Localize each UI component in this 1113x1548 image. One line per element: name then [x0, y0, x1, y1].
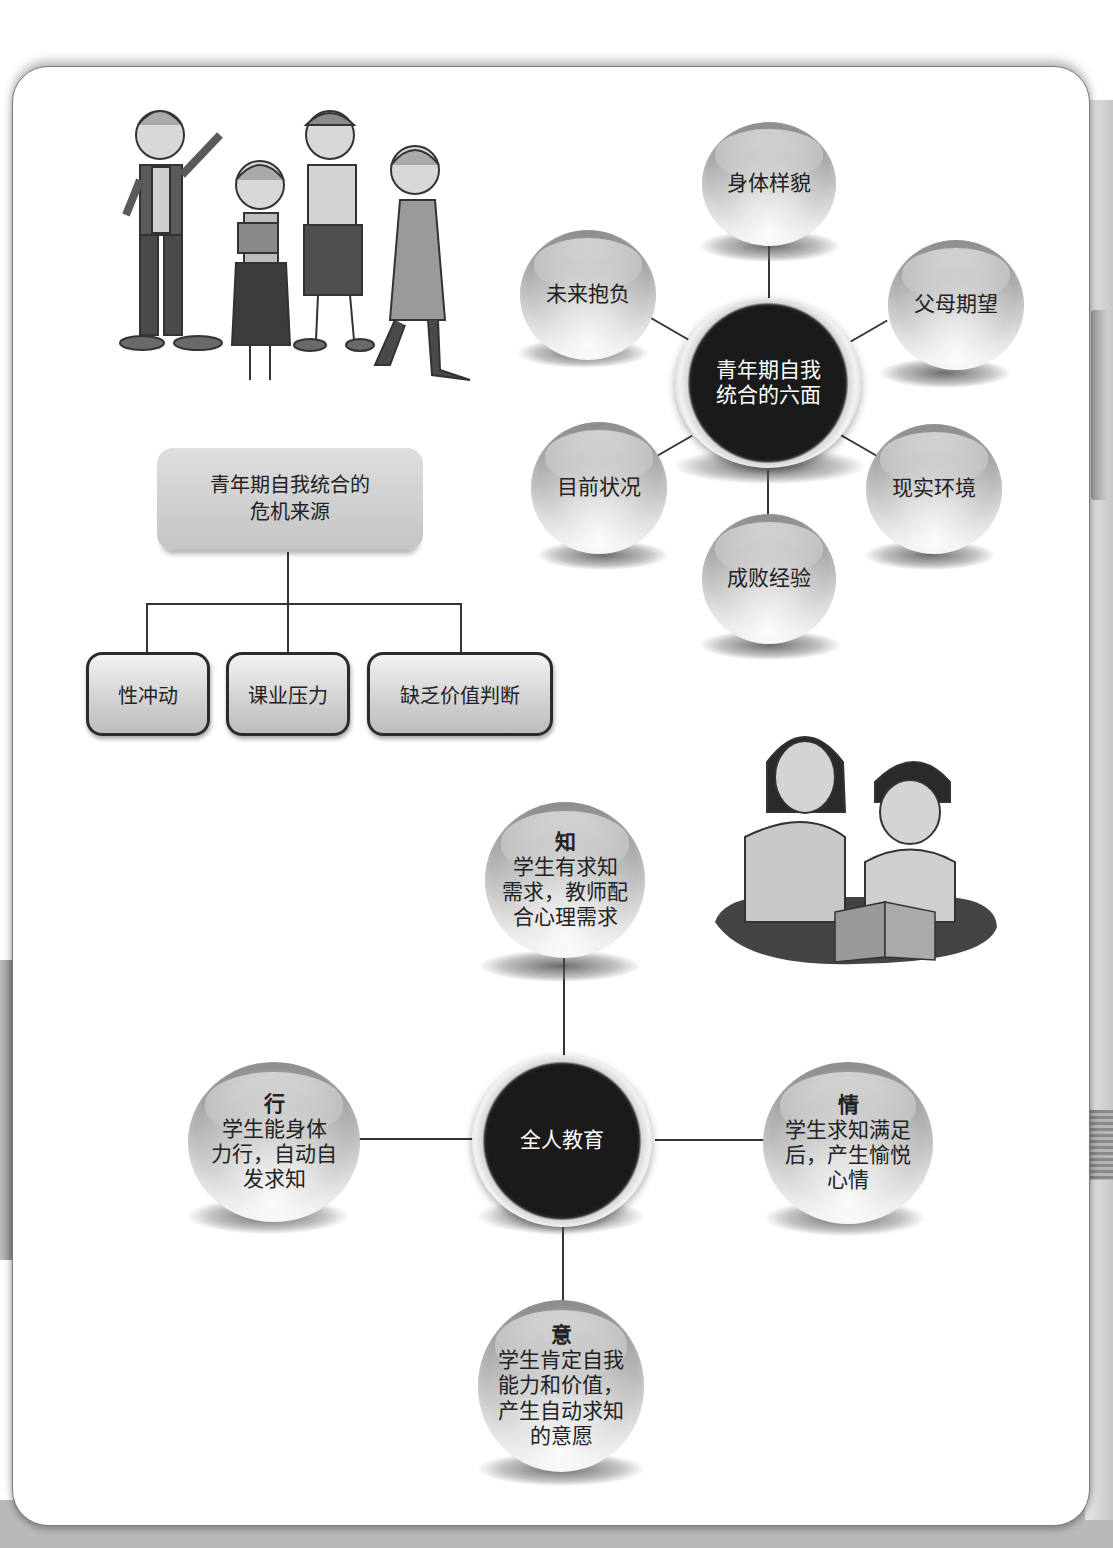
education-label: 意 学生肯定自我 能力和价值， 产生自动求知 的意愿	[498, 1323, 624, 1449]
aspect-node-upper-left: 未来抱负	[520, 230, 656, 360]
connector-qing	[655, 1139, 767, 1141]
aspect-node-upper-right: 父母期望	[888, 240, 1024, 370]
open-book	[835, 902, 935, 962]
connector-xing	[355, 1138, 475, 1140]
education-node-qing: 情 学生求知满足 后，产生愉悦 心情	[763, 1062, 933, 1224]
aspect-label: 现实环境	[892, 476, 976, 501]
crisis-child-sexual-impulse: 性冲动	[86, 652, 210, 736]
page-tab	[1091, 310, 1109, 500]
teen-boy-jacket	[120, 111, 222, 350]
education-node-yi: 意 学生肯定自我 能力和价值， 产生自动求知 的意愿	[478, 1300, 644, 1472]
aspect-node-lower-right: 现实环境	[866, 424, 1002, 554]
holistic-education-center: 全人教育	[472, 1055, 652, 1227]
crisis-child-academic-pressure: 课业压力	[226, 652, 350, 736]
education-node-zhi: 知 学生有求知 需求，教师配 合心理需求	[485, 802, 645, 958]
education-label: 行 学生能身体 力行，自动自 发求知	[211, 1092, 337, 1193]
child-figure	[865, 762, 955, 922]
aspect-label: 父母期望	[914, 292, 998, 317]
tree-trunk	[287, 552, 289, 652]
aspect-node-bottom: 成败经验	[702, 514, 836, 644]
center-label: 青年期自我 统合的六面	[716, 358, 821, 408]
education-label: 知 学生有求知 需求，教师配 合心理需求	[502, 830, 628, 931]
aspect-label: 成败经验	[727, 566, 811, 591]
aspect-label: 目前状况	[557, 475, 641, 500]
tree-branch-left	[146, 603, 148, 653]
aspect-label: 未来抱负	[546, 282, 630, 307]
center-label: 全人教育	[520, 1128, 604, 1153]
teenagers-illustration	[110, 95, 480, 395]
teen-girl-book	[232, 161, 290, 380]
teen-boy-cap	[294, 111, 374, 351]
crisis-child-lack-of-values: 缺乏价值判断	[367, 652, 553, 736]
aspect-node-lower-left: 目前状况	[531, 422, 667, 554]
aspect-label: 身体样貌	[727, 171, 811, 196]
six-aspects-center: 青年期自我 统合的六面	[675, 298, 861, 468]
crisis-root-box: 青年期自我统合的 危机来源	[157, 448, 423, 550]
teacher-figure	[745, 737, 845, 922]
tree-branch-horizontal	[146, 603, 462, 605]
crisis-root-label: 青年期自我统合的 危机来源	[210, 472, 370, 526]
aspect-node-top: 身体样貌	[702, 122, 836, 246]
teacher-child-illustration	[705, 722, 1005, 972]
teen-girl-dress	[375, 146, 470, 380]
education-node-xing: 行 学生能身体 力行，自动自 发求知	[188, 1062, 360, 1222]
tree-branch-right	[460, 603, 462, 653]
education-label: 情 学生求知满足 后，产生愉悦 心情	[785, 1093, 911, 1194]
